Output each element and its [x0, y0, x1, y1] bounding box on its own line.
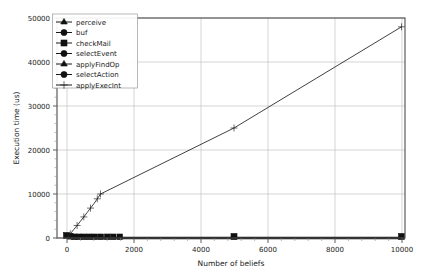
marker-flat — [92, 234, 98, 240]
legend-label-selectAction: selectAction — [76, 71, 119, 79]
legend[interactable]: perceive buf checkMail selectEvent — [53, 14, 138, 90]
legend-label-applyFindOp: applyFindOp — [76, 61, 120, 69]
legend-label-applyExecInt: applyExecInt — [76, 82, 121, 90]
marker-flat — [98, 234, 104, 240]
legend-item-checkMail[interactable]: checkMail — [56, 40, 111, 48]
marker-flat-10000 — [399, 234, 405, 240]
marker-flat — [81, 234, 87, 240]
circle-icon — [61, 50, 67, 56]
legend-label-perceive: perceive — [76, 19, 106, 27]
marker-flat-5000 — [231, 234, 237, 240]
marker-flat — [87, 234, 93, 240]
x-axis-title: Number of beliefs — [198, 259, 265, 268]
square-icon — [61, 40, 67, 46]
xtick-label-10000: 10000 — [391, 246, 413, 254]
legend-label-checkMail: checkMail — [76, 40, 111, 48]
legend-label-selectEvent: selectEvent — [76, 50, 117, 58]
xtick-label-4000: 4000 — [192, 246, 210, 254]
xtick-label-8000: 8000 — [326, 246, 344, 254]
ytick-label-50000: 50000 — [28, 15, 50, 23]
marker-flat — [117, 234, 123, 240]
ytick-label-0: 0 — [46, 235, 50, 243]
circle-icon — [61, 71, 67, 77]
marker-flat — [111, 234, 117, 240]
legend-label-buf: buf — [76, 29, 88, 37]
y-axis-title: Execution time (us) — [12, 91, 21, 164]
ytick-label-40000: 40000 — [28, 59, 50, 67]
xtick-label-2000: 2000 — [125, 246, 143, 254]
xtick-label-6000: 6000 — [259, 246, 277, 254]
ytick-label-30000: 30000 — [28, 103, 50, 111]
ytick-label-10000: 10000 — [28, 191, 50, 199]
ytick-label-20000: 20000 — [28, 147, 50, 155]
circle-icon — [61, 29, 67, 35]
chart-figure: 0 10000 20000 30000 40000 50000 Executio… — [0, 0, 422, 279]
xtick-label-0: 0 — [65, 246, 69, 254]
execution-time-vs-beliefs-line-chart: 0 10000 20000 30000 40000 50000 Executio… — [0, 0, 422, 279]
